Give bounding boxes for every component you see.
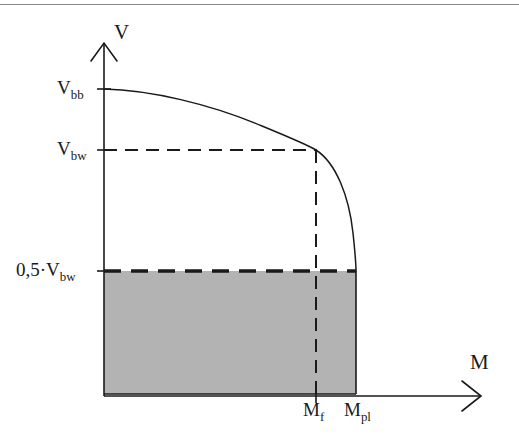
tick-label-half-vbw: 0,5·Vbw bbox=[16, 260, 76, 284]
tick-label-vbw-subscript: bw bbox=[71, 148, 87, 163]
tick-label-mf-base: M bbox=[303, 399, 320, 420]
tick-label-vbb-base: V bbox=[57, 77, 71, 98]
shaded-region-shear-zone bbox=[104, 271, 356, 394]
v-axis-label: V bbox=[114, 22, 129, 43]
tick-label-mpl-base: M bbox=[344, 399, 361, 420]
tick-label-half-vbw-base: V bbox=[46, 259, 60, 280]
tick-label-vbb: Vbb bbox=[57, 78, 84, 102]
tick-label-mf-subscript: f bbox=[320, 409, 324, 424]
tick-label-half-vbw-prefix: 0,5· bbox=[16, 259, 46, 280]
tick-label-mpl: Mpl bbox=[344, 400, 371, 424]
tick-label-vbb-subscript: bb bbox=[71, 87, 84, 102]
interaction-curve bbox=[104, 89, 356, 271]
tick-label-half-vbw-subscript: bw bbox=[60, 269, 76, 284]
m-axis-label: M bbox=[470, 352, 489, 373]
tick-label-vbw-base: V bbox=[57, 138, 71, 159]
tick-label-vbw: Vbw bbox=[57, 139, 87, 163]
plot-canvas bbox=[0, 0, 519, 446]
tick-label-mpl-subscript: pl bbox=[361, 409, 371, 424]
tick-label-mf: Mf bbox=[303, 400, 324, 424]
interaction-diagram-figure: V M Vbb Vbw 0,5·Vbw Mf Mpl bbox=[0, 0, 519, 446]
